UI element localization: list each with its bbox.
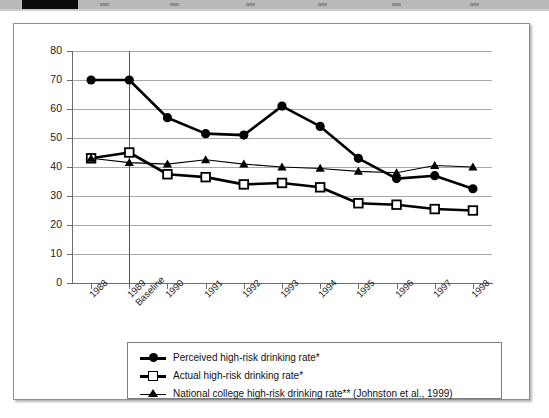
header-mark-2: [170, 3, 179, 6]
chart-legend: Perceived high-risk drinking rate* Actua…: [127, 342, 502, 399]
page-header-strip: [0, 0, 549, 11]
data-point-0-1: [125, 75, 134, 84]
data-point-2-9: [430, 161, 439, 169]
data-point-0-3: [201, 129, 210, 138]
header-mark-1: [100, 3, 109, 6]
legend-label-actual: Actual high-risk drinking rate*: [173, 370, 303, 381]
legend-item-perceived: Perceived high-risk drinking rate*: [139, 349, 320, 366]
y-tick-label-80: 80: [32, 45, 62, 55]
data-point-1-8: [392, 200, 401, 209]
y-tick-label-60: 60: [32, 103, 62, 113]
series-1: [87, 148, 477, 215]
data-point-0-2: [163, 113, 172, 122]
y-tick-label-0: 0: [32, 277, 62, 287]
header-mark-4: [318, 3, 327, 6]
y-tick-label-70: 70: [32, 74, 62, 84]
filled-triangle-icon: [139, 385, 167, 402]
y-tick-label-40: 40: [32, 161, 62, 171]
data-point-1-3: [201, 173, 210, 182]
series-line-0: [91, 80, 473, 189]
header-gloss: [0, 9, 549, 11]
data-point-0-4: [239, 131, 248, 140]
y-tick-mark-0: [67, 283, 72, 284]
header-mark-5: [392, 3, 401, 6]
series-0: [86, 75, 477, 193]
data-point-1-5: [278, 179, 287, 188]
figure-frame: 01020304050607080 19881989Baseline199019…: [13, 23, 530, 400]
y-tick-label-20: 20: [32, 219, 62, 229]
legend-item-national: National college high-risk drinking rate…: [139, 385, 453, 402]
chart-series-layer: [72, 51, 492, 283]
y-tick-label-50: 50: [32, 132, 62, 142]
data-point-1-10: [469, 206, 478, 215]
filled-circle-icon: [139, 349, 167, 366]
data-point-1-9: [430, 205, 439, 214]
legend-label-national: National college high-risk drinking rate…: [173, 388, 453, 399]
data-point-1-4: [240, 180, 249, 189]
data-point-1-1: [125, 148, 134, 157]
data-point-0-7: [354, 154, 363, 163]
series-2: [86, 154, 477, 177]
legend-label-perceived: Perceived high-risk drinking rate*: [173, 352, 320, 363]
open-square-icon: [139, 367, 167, 384]
y-tick-label-30: 30: [32, 190, 62, 200]
data-point-0-0: [86, 75, 95, 84]
data-point-0-10: [468, 184, 477, 193]
data-point-1-6: [316, 183, 325, 192]
data-point-0-6: [316, 122, 325, 131]
data-point-0-5: [277, 102, 286, 111]
data-point-1-7: [354, 199, 363, 208]
header-mark-3: [246, 3, 255, 6]
data-point-0-9: [430, 171, 439, 180]
data-point-1-2: [163, 170, 172, 179]
y-tick-label-10: 10: [32, 248, 62, 258]
header-mark-6: [470, 3, 479, 6]
legend-item-actual: Actual high-risk drinking rate*: [139, 367, 303, 384]
data-point-2-3: [201, 155, 210, 163]
